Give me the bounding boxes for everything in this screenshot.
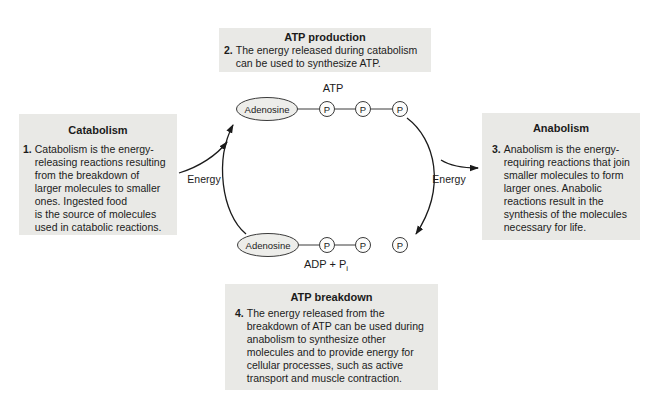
atp-metabolism-cycle-diagram: ATP production 2. The energy released du… bbox=[0, 0, 650, 401]
adenosine-bottom-label: Adenosine bbox=[246, 240, 291, 251]
phosphate-label: P bbox=[397, 104, 403, 115]
phosphate-label: P bbox=[360, 240, 366, 251]
adp-to-atp-arrow bbox=[223, 125, 246, 234]
phosphate-label: P bbox=[324, 240, 330, 251]
free-phosphate-label: P bbox=[397, 240, 403, 251]
adp-label-main: ADP + P bbox=[304, 258, 346, 270]
catabolism-energy-in-arrow bbox=[179, 142, 227, 173]
phosphate-label: P bbox=[324, 104, 330, 115]
phosphate-label: P bbox=[360, 104, 366, 115]
energy-right-label: Energy bbox=[432, 173, 466, 185]
adp-label-subscript: i bbox=[346, 264, 348, 273]
cycle-graphic: Energy Energy ATP Adenosine P P P Adenos… bbox=[0, 0, 650, 401]
atp-molecule: ATP Adenosine P P P bbox=[237, 82, 408, 121]
atp-to-adp-arrow bbox=[407, 118, 434, 234]
adenosine-top-label: Adenosine bbox=[245, 104, 290, 115]
atp-label: ATP bbox=[323, 82, 344, 94]
anabolism-energy-out-arrow bbox=[441, 160, 478, 168]
adp-molecule: Adenosine P P P ADP + Pi bbox=[238, 234, 408, 274]
energy-left-label: Energy bbox=[187, 173, 221, 185]
adp-label: ADP + Pi bbox=[304, 258, 348, 273]
